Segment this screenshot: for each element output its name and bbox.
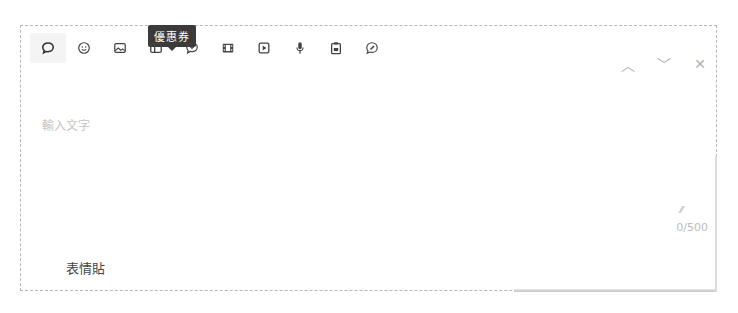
edit-bubble-button[interactable]: [354, 33, 390, 63]
image-icon: [113, 41, 127, 55]
message-toolbar: [30, 28, 390, 68]
chevron-up-icon[interactable]: ︿: [620, 54, 636, 74]
coupon-button[interactable]: [138, 33, 174, 63]
clipboard-button[interactable]: [318, 33, 354, 63]
video-film-button[interactable]: [210, 33, 246, 63]
microphone-icon: [293, 41, 307, 55]
coupon-icon: [149, 41, 163, 55]
play-video-button[interactable]: [246, 33, 282, 63]
message-navigation: ︿ ﹀ ✕: [620, 54, 708, 74]
edit-bubble-icon: [365, 41, 379, 55]
image-button[interactable]: [102, 33, 138, 63]
add-reply-icon: [185, 41, 199, 55]
emoji-button[interactable]: [66, 33, 102, 63]
comment-icon: [41, 41, 55, 55]
comment-button[interactable]: [30, 33, 66, 63]
message-input[interactable]: [30, 104, 705, 234]
play-video-icon: [257, 41, 271, 55]
add-reply-button[interactable]: [174, 33, 210, 63]
character-counter: 0/500: [676, 221, 708, 234]
chevron-down-icon[interactable]: ﹀: [656, 54, 672, 74]
right-edge: [715, 156, 717, 292]
sticker-section-label: 表情貼: [66, 258, 105, 277]
bottom-edge: [514, 289, 717, 292]
close-icon[interactable]: ✕: [692, 56, 708, 72]
clipboard-icon: [329, 41, 343, 55]
emoji-icon: [77, 41, 91, 55]
video-film-icon: [221, 41, 235, 55]
resize-handle-icon[interactable]: ⁄⁄: [680, 205, 683, 215]
microphone-button[interactable]: [282, 33, 318, 63]
